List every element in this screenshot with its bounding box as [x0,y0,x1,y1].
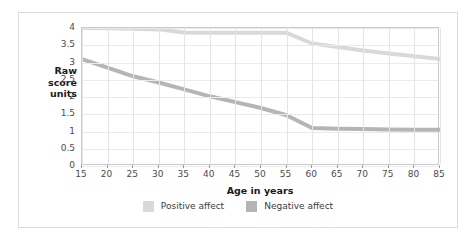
x-axis-tick-mark [209,165,210,168]
y-axis-tick-label: 3.5 [61,40,75,49]
x-axis-tick-label: 65 [331,170,342,179]
chart-legend: Positive affectNegative affect [19,201,457,212]
gridline-horizontal [82,45,438,46]
plot-wrapper: 00.511.522.533.54 1520253035404550556065… [81,27,439,165]
x-axis-tick-label: 30 [152,170,163,179]
x-axis-tick-mark [439,165,440,168]
legend-swatch-icon [246,201,257,212]
gridline-horizontal [82,114,438,115]
x-axis-tick-label: 50 [254,170,265,179]
x-axis-tick-mark [337,165,338,168]
y-axis-tick-label: 2.5 [61,74,75,83]
gridline-vertical [133,28,134,164]
x-axis-tick-label: 85 [433,170,444,179]
y-axis-tick-label: 1.5 [61,109,75,118]
y-axis-tick-label: 1 [69,126,75,135]
gridline-vertical [440,28,441,164]
gridline-vertical [210,28,211,164]
x-axis-tick-mark [81,165,82,168]
y-axis-tick-label: 2 [69,92,75,101]
gridline-vertical [287,28,288,164]
x-axis-tick-label: 55 [280,170,291,179]
x-axis-tick-label: 70 [357,170,368,179]
gridline-vertical [261,28,262,164]
gridline-vertical [338,28,339,164]
x-axis-tick-mark [388,165,389,168]
gridline-vertical [82,28,83,164]
x-axis-tick-mark [311,165,312,168]
gridline-horizontal [82,63,438,64]
x-axis-tick-mark [413,165,414,168]
x-axis-tick-label: 40 [203,170,214,179]
x-axis-tick-mark [286,165,287,168]
x-axis-tick-label: 20 [101,170,112,179]
x-axis-tick-label: 45 [229,170,240,179]
gridline-vertical [389,28,390,164]
x-axis-tick-label: 75 [382,170,393,179]
gridline-vertical [363,28,364,164]
chart-figure: Raw score units 00.511.522.533.54 152025… [18,12,458,228]
y-axis-tick-label: 4 [69,23,75,32]
gridline-horizontal [82,132,438,133]
gridline-vertical [159,28,160,164]
x-axis-tick-mark [362,165,363,168]
x-axis-tick-label: 25 [126,170,137,179]
y-axis-tick-label: 3 [69,57,75,66]
legend-label: Positive affect [161,202,224,211]
x-axis-tick-mark [260,165,261,168]
gridline-vertical [312,28,313,164]
x-axis-title: Age in years [81,185,439,196]
gridline-vertical [414,28,415,164]
gridline-horizontal [82,97,438,98]
legend-label: Negative affect [264,202,333,211]
plot-area [81,27,439,165]
x-axis-tick-label: 80 [408,170,419,179]
gridline-vertical [184,28,185,164]
x-axis-tick-label: 35 [178,170,189,179]
gridline-horizontal [82,28,438,29]
x-axis-tick-mark [132,165,133,168]
x-axis-tick-mark [183,165,184,168]
x-axis-tick-mark [107,165,108,168]
legend-item[interactable]: Negative affect [246,201,333,212]
legend-swatch-icon [143,201,154,212]
x-axis-tick-label: 15 [75,170,86,179]
gridline-horizontal [82,149,438,150]
gridline-vertical [235,28,236,164]
x-axis-tick-mark [158,165,159,168]
x-axis-tick-label: 60 [305,170,316,179]
legend-item[interactable]: Positive affect [143,201,224,212]
y-axis-tick-label: 0.5 [61,143,75,152]
gridline-horizontal [82,80,438,81]
x-axis-tick-mark [234,165,235,168]
y-axis-tick-label: 0 [69,161,75,170]
gridline-vertical [108,28,109,164]
